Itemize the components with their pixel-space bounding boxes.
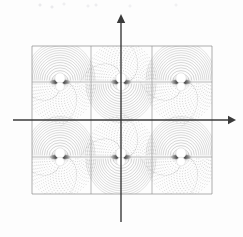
dipole-disk-upper: [176, 73, 186, 83]
dipole-disk-lower: [177, 82, 186, 91]
dipole-disk-lower: [177, 157, 186, 166]
plot-canvas: [0, 0, 243, 237]
dipole-disk-lower: [56, 82, 65, 91]
contour-plot-figure: [0, 0, 243, 237]
dipole-disk-lower: [56, 157, 65, 166]
dipole-disk-upper: [176, 148, 186, 158]
dipole-disk-upper: [55, 148, 65, 158]
dipole-disk-upper: [55, 73, 65, 83]
